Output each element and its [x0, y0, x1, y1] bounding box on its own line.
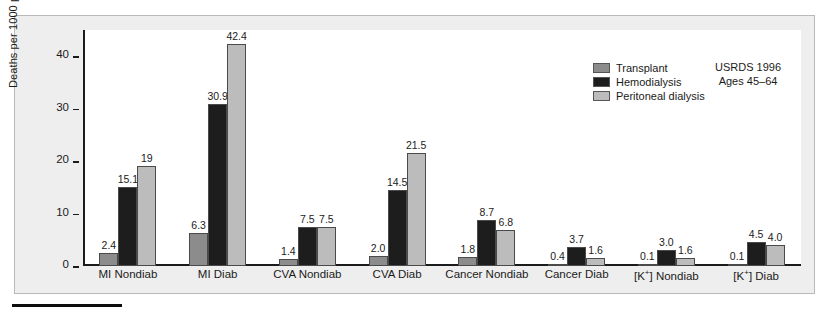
y-axis-tick-label: 20	[56, 153, 69, 165]
bar-value-label: 6.3	[191, 219, 206, 231]
bar[interactable]: 0.1	[638, 264, 657, 266]
y-axis-tick: 0	[15, 266, 79, 267]
y-axis-tick: 10	[15, 214, 79, 215]
bar[interactable]: 6.8	[496, 230, 515, 266]
y-axis-tick-label: 0	[63, 258, 69, 270]
legend-item[interactable]: Peritoneal dialysis	[593, 89, 705, 102]
legend-item[interactable]: Transplant	[593, 61, 705, 74]
bar[interactable]: 0.1	[728, 264, 747, 266]
category-label: Cancer Nondiab	[445, 268, 528, 280]
bar-value-label: 21.5	[406, 139, 426, 151]
bar-value-label: 19	[141, 152, 153, 164]
bar[interactable]: 6.3	[189, 233, 208, 266]
bar[interactable]: 19	[137, 166, 156, 266]
figure-panel: Deaths per 1000 patient-years 010203040 …	[14, 15, 815, 294]
legend-swatch	[593, 91, 610, 101]
y-axis-title: Deaths per 1000 patient-years	[7, 0, 19, 88]
bar[interactable]: 2.4	[99, 253, 118, 266]
bar-value-label: 7.5	[319, 213, 334, 225]
bar[interactable]: 4.0	[766, 245, 785, 266]
bar-value-label: 4.5	[749, 228, 764, 240]
bar[interactable]: 1.8	[458, 257, 477, 266]
bar[interactable]: 0.4	[548, 264, 567, 266]
bar[interactable]: 7.5	[317, 227, 336, 266]
legend-label: Transplant	[616, 62, 668, 74]
category-label: CVA Diab	[373, 268, 422, 280]
bar[interactable]: 8.7	[477, 220, 496, 266]
bar[interactable]: 42.4	[227, 44, 246, 266]
bar-value-label: 0.4	[550, 250, 565, 262]
bar-value-label: 4.0	[768, 231, 783, 243]
y-axis-tick-mark	[73, 109, 79, 111]
bar[interactable]: 1.6	[586, 258, 605, 266]
bar[interactable]: 21.5	[407, 153, 426, 266]
bar-value-label: 2.0	[371, 242, 386, 254]
bar-value-label: 3.0	[659, 236, 674, 248]
y-axis-tick: 40	[15, 56, 79, 57]
y-axis-tick: 30	[15, 109, 79, 110]
bar-group: 1.47.57.5	[279, 30, 336, 266]
bar-value-label: 15.1	[118, 173, 138, 185]
legend-item[interactable]: Hemodialysis	[593, 75, 705, 88]
bar[interactable]: 4.5	[747, 242, 766, 266]
legend-label: Hemodialysis	[616, 76, 681, 88]
bar[interactable]: 14.5	[388, 190, 407, 266]
bar-value-label: 1.6	[678, 244, 693, 256]
bar-value-label: 8.7	[480, 206, 495, 218]
bar-value-label: 14.5	[387, 176, 407, 188]
bar-value-label: 6.8	[499, 216, 514, 228]
y-axis-tick-label: 40	[56, 48, 69, 60]
bar[interactable]: 1.6	[676, 258, 695, 266]
caption-rule	[12, 304, 122, 307]
bar-value-label: 0.1	[730, 250, 745, 262]
source-annotation: USRDS 1996 Ages 45–64	[715, 60, 781, 88]
bar-value-label: 7.5	[300, 213, 315, 225]
y-axis-tick-mark	[73, 56, 79, 58]
chart-legend: TransplantHemodialysisPeritoneal dialysi…	[593, 61, 705, 103]
bar-group: 2.415.119	[99, 30, 156, 266]
category-axis: MI NondiabMI DiabCVA NondiabCVA DiabCanc…	[83, 268, 801, 288]
bar-value-label: 1.4	[281, 245, 296, 257]
bar[interactable]: 3.7	[567, 247, 586, 266]
legend-label: Peritoneal dialysis	[616, 90, 705, 102]
category-label: CVA Nondiab	[273, 268, 341, 280]
bar-group: 6.330.942.4	[189, 30, 246, 266]
bar[interactable]: 15.1	[118, 187, 137, 266]
y-axis-tick-mark	[73, 266, 79, 268]
bar[interactable]: 2.0	[369, 256, 388, 266]
bar-value-label: 3.7	[569, 233, 584, 245]
y-axis-tick-mark	[73, 214, 79, 216]
source-line-1: USRDS 1996	[715, 60, 781, 74]
bar-value-label: 2.4	[102, 239, 117, 251]
bar[interactable]: 30.9	[208, 104, 227, 266]
bar-group: 2.014.521.5	[369, 30, 426, 266]
bar-value-label: 1.8	[461, 243, 476, 255]
y-axis-tick-label: 30	[56, 101, 69, 113]
category-label: [K+] Diab	[733, 268, 779, 282]
y-axis-tick-mark	[73, 161, 79, 163]
y-axis-tick: 20	[15, 161, 79, 162]
legend-swatch	[593, 77, 610, 87]
bar-value-label: 1.6	[588, 244, 603, 256]
legend-swatch	[593, 63, 610, 73]
y-axis-tick-label: 10	[56, 206, 69, 218]
bar-value-label: 0.1	[640, 250, 655, 262]
source-line-2: Ages 45–64	[715, 74, 781, 88]
bar-value-label: 42.4	[226, 30, 246, 42]
bar-group: 1.88.76.8	[458, 30, 515, 266]
category-label: [K+] Nondiab	[634, 268, 699, 282]
bar[interactable]: 1.4	[279, 259, 298, 266]
category-label: MI Diab	[198, 268, 238, 280]
category-label: MI Nondiab	[98, 268, 157, 280]
bar[interactable]: 7.5	[298, 227, 317, 266]
bar-value-label: 30.9	[207, 90, 227, 102]
category-label: Cancer Diab	[545, 268, 609, 280]
bar[interactable]: 3.0	[657, 250, 676, 266]
